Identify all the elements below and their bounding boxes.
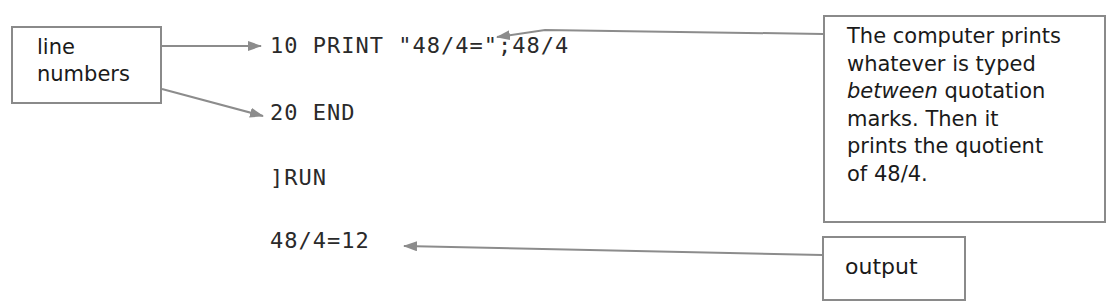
code-line-20: 20 END — [270, 100, 355, 125]
note-line: whatever is typed — [847, 51, 1094, 79]
note-emphasis: between — [847, 79, 938, 103]
run-command: ]RUN — [270, 165, 327, 190]
program-output: 48/4=12 — [270, 228, 370, 253]
note-line: of 48/4. — [847, 161, 1094, 189]
note-line: marks. Then it — [847, 106, 1094, 134]
code-line-10: 10 PRINT "48/4=";48/4 — [270, 33, 569, 58]
arrow-to-line-20 — [162, 89, 263, 116]
note-line: prints the quotient — [847, 133, 1094, 161]
line-numbers-callout: line numbers — [11, 26, 162, 104]
output-callout: output — [822, 236, 966, 301]
note-line: between quotation — [847, 78, 1094, 106]
output-label: output — [845, 254, 918, 279]
arrow-to-output — [404, 246, 822, 255]
callout-text: numbers — [37, 61, 160, 88]
note-line: The computer prints — [847, 23, 1094, 51]
note-line-rest: quotation — [938, 79, 1046, 103]
callout-text: line — [37, 34, 160, 61]
explanation-callout: The computer prints whatever is typed be… — [823, 15, 1106, 223]
